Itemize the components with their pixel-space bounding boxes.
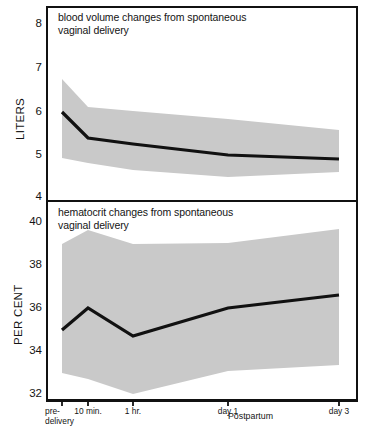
x-tick-label-day-3: day 3 — [317, 407, 361, 417]
x-axis-title: Postpartum — [228, 411, 273, 421]
hematocrit-range-band — [62, 229, 339, 394]
x-tick-label-10-min: 10 min. — [63, 407, 113, 417]
plot-area-hematocrit — [0, 0, 371, 429]
x-tick-label-1-hr: 1 hr. — [113, 407, 153, 417]
blood-volume-hematocrit-figure: blood volume changes from spontaneous va… — [0, 0, 371, 429]
